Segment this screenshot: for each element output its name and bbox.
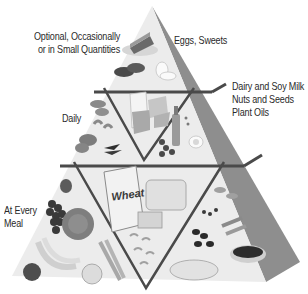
label-nuts-seeds: Nuts and Seeds (232, 93, 304, 106)
rice-bowl-icon (230, 245, 266, 263)
label-optional-tier: Optional, Occasionally or in Small Quant… (34, 30, 120, 56)
cabbage-icon (62, 208, 94, 240)
label-optional-line-1: Optional, Occasionally (34, 30, 120, 43)
label-daily-tier: Daily (62, 112, 81, 125)
label-daily-foods: Dairy and Soy Milk Nuts and Seeds Plant … (232, 80, 304, 119)
divider-top-side (212, 84, 226, 92)
label-optional-line-2: or in Small Quantities (34, 43, 120, 56)
label-plant-oils: Plant Oils (232, 106, 304, 119)
label-eggs-sweets: Eggs, Sweets (174, 34, 227, 47)
food-pyramid-diagram: Wheat (0, 0, 308, 294)
tortilla-plate-icon (170, 260, 218, 280)
label-every-meal-tier: At Every Meal (4, 204, 37, 230)
label-every-meal-line-2: Meal (4, 217, 37, 230)
strawberry-icon (60, 179, 72, 193)
apple-icon (23, 263, 41, 281)
divider-mid-side (244, 155, 262, 166)
label-every-meal-line-1: At Every (4, 204, 37, 217)
label-dairy-soy-milk: Dairy and Soy Milk (232, 80, 304, 93)
peach-icon (82, 264, 102, 284)
egg-half-icon (189, 136, 203, 148)
